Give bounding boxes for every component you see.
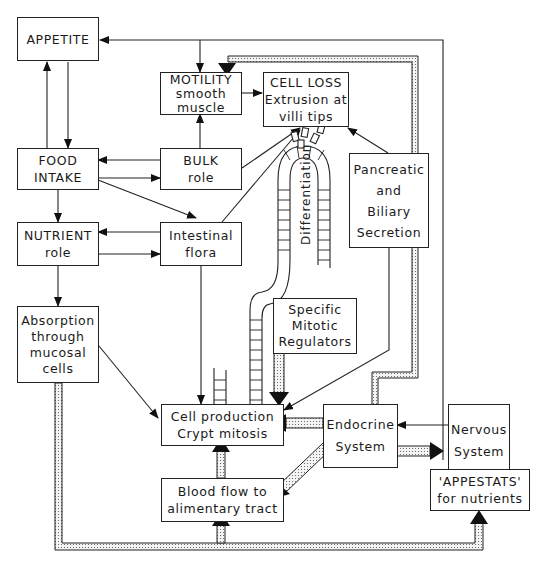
food-intake-label-1: FOOD [39,152,78,169]
appestats-label-1: 'APPESTATS' [439,473,522,490]
cell-loss-sublabel-1: Extrusion at [265,91,348,108]
mitotic-label-2: Mitotic [292,318,338,334]
box-endocrine-system: Endocrine System [323,404,398,468]
box-intestinal-flora: Intestinal flora [160,222,242,266]
plain-arrows [47,40,448,460]
box-food-intake: FOOD INTAKE [17,148,99,190]
bulk-sublabel: role [188,169,214,186]
motility-sublabel-2: muscle [177,101,225,115]
box-bulk: BULK role [160,148,242,190]
pancreatic-label-2: and [376,180,401,201]
motility-sublabel-1: smooth [176,87,226,101]
box-cell-loss: CELL LOSS Extrusion at villi tips [263,72,349,127]
cell-production-label-2: Crypt mitosis [177,425,268,442]
stippled-pathways [55,55,483,550]
box-absorption: Absorption through mucosal cells [17,306,99,383]
appestats-label-2: for nutrients [437,490,522,507]
absorption-label-1: Absorption [21,313,95,329]
absorption-label-3: mucosal [30,345,86,361]
cell-production-label-1: Cell production [171,408,274,425]
mitotic-label-1: Specific [288,302,341,318]
cell-loss-label: CELL LOSS [270,74,342,91]
blood-flow-label-1: Blood flow to [178,483,267,500]
endocrine-label-1: Endocrine [327,414,395,436]
appetite-label: APPETITE [26,31,89,48]
nutrient-sublabel: role [45,244,71,261]
absorption-label-4: cells [42,361,73,377]
arrowhead-bottom-to-appestats [470,510,488,524]
crypt-label: Differentiation [299,144,313,245]
box-motility: MOTILITY smooth muscle [160,72,242,115]
box-appestats: 'APPESTATS' for nutrients [430,469,530,511]
box-nutrient: NUTRIENT role [17,222,99,266]
box-blood-flow: Blood flow to alimentary tract [161,478,284,522]
box-nervous-system: Nervous System [448,404,510,472]
absorption-label-2: through [31,329,84,345]
mitotic-label-3: Regulators [278,334,351,350]
nutrient-label: NUTRIENT [24,227,92,244]
pancreatic-label-1: Pancreatic [354,159,425,180]
nervous-label-2: System [454,441,504,463]
box-appetite: APPETITE [17,17,99,61]
food-intake-label-2: INTAKE [34,169,82,186]
nervous-label-1: Nervous [451,419,507,441]
flora-label-1: Intestinal [169,227,233,244]
arrow-absorption-to-cellprod [99,346,158,418]
pancreatic-label-3: Biliary [367,201,410,222]
arrow-pancreatic-to-cellloss [348,128,388,153]
motility-label: MOTILITY [170,73,233,87]
bulk-label: BULK [183,152,218,169]
flora-label-2: flora [185,244,216,261]
endocrine-label-2: System [335,436,385,458]
box-cell-production: Cell production Crypt mitosis [161,404,284,446]
blood-flow-label-2: alimentary tract [167,500,278,517]
box-pancreatic-biliary: Pancreatic and Biliary Secretion [349,153,429,248]
pancreatic-label-4: Secretion [357,222,421,243]
arrowhead-endocrine-to-nervous [430,442,444,460]
cell-loss-sublabel-2: villi tips [279,108,333,125]
box-specific-mitotic-regulators: Specific Mitotic Regulators [273,298,357,354]
